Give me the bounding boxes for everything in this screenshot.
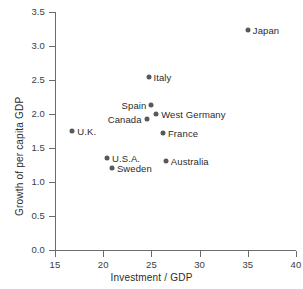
data-point[interactable] xyxy=(105,156,110,161)
data-point-label: Japan xyxy=(253,25,279,36)
y-axis-tick-label: 0.0 xyxy=(19,244,45,255)
y-axis-tick xyxy=(49,148,55,149)
y-axis-tick-label: 3.0 xyxy=(19,40,45,51)
data-point-label: France xyxy=(168,128,198,139)
data-point-label: West Germany xyxy=(161,109,225,120)
data-point[interactable] xyxy=(160,131,165,136)
data-point-label: Spain xyxy=(122,100,147,111)
data-point[interactable] xyxy=(154,112,159,117)
y-axis-tick xyxy=(49,46,55,47)
x-axis-title: Investment / GDP xyxy=(0,272,303,283)
data-point[interactable] xyxy=(70,129,75,134)
data-point-label: Italy xyxy=(154,71,172,82)
data-point-label: U.K. xyxy=(77,126,96,137)
y-axis-tick xyxy=(49,216,55,217)
y-axis-tick xyxy=(49,114,55,115)
x-axis-tick xyxy=(296,251,297,257)
x-axis-tick-label: 40 xyxy=(281,259,303,270)
x-axis-tick xyxy=(151,251,152,257)
x-axis-tick-label: 30 xyxy=(185,259,215,270)
data-point-label: Canada xyxy=(108,113,142,124)
y-axis-tick xyxy=(49,182,55,183)
x-axis-tick-label: 35 xyxy=(233,259,263,270)
y-axis-tick xyxy=(49,12,55,13)
x-axis-tick-label: 15 xyxy=(40,259,70,270)
data-point[interactable] xyxy=(245,28,250,33)
x-axis-tick-label: 20 xyxy=(88,259,118,270)
y-axis-tick-label: 2.5 xyxy=(19,74,45,85)
y-axis-title: Growth of per capita GDP xyxy=(14,97,25,216)
data-point[interactable] xyxy=(144,116,149,121)
x-axis-tick xyxy=(103,251,104,257)
x-axis-line xyxy=(55,250,296,251)
data-point-label: Sweden xyxy=(117,163,152,174)
x-axis-tick-label: 25 xyxy=(136,259,166,270)
y-axis-line xyxy=(55,12,56,251)
data-point[interactable] xyxy=(109,166,114,171)
x-axis-tick xyxy=(200,251,201,257)
y-axis-tick xyxy=(49,80,55,81)
data-point[interactable] xyxy=(149,103,154,108)
scatter-plot-figure: 0.00.51.01.52.02.53.03.5 152025303540 Ja… xyxy=(0,0,303,289)
x-axis-tick xyxy=(248,251,249,257)
data-point[interactable] xyxy=(146,74,151,79)
data-point-label: Australia xyxy=(171,155,209,166)
y-axis-tick-label: 3.5 xyxy=(19,6,45,17)
x-axis-tick xyxy=(55,251,56,257)
data-point[interactable] xyxy=(163,158,168,163)
